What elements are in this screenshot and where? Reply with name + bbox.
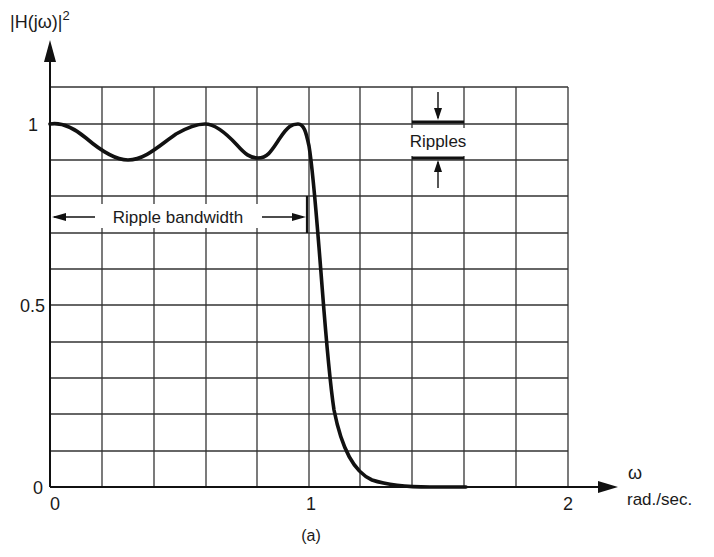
x-axis-units: rad./sec. [627,490,692,509]
arrow-up-icon [434,160,442,172]
x-tick-1: 1 [306,494,316,514]
x-axis-label: ω [628,463,642,483]
y-axis-arrow-icon [44,40,56,62]
y-tick-0: 0 [33,478,43,498]
arrow-left-icon [52,213,66,221]
ripples-label: Ripples [410,132,467,151]
x-tick-0: 0 [50,494,60,514]
chart: Ripple bandwidth Ripples |H(jω)|2 1 0.5 … [0,0,714,557]
y-tick-0-5: 0.5 [20,296,45,316]
y-axis-label: |H(jω)|2 [10,8,70,32]
arrow-down-icon [434,108,442,120]
x-tick-2: 2 [563,494,573,514]
arrow-right-icon [292,213,306,221]
x-axis-arrow-icon [598,481,618,493]
y-tick-1: 1 [28,115,38,135]
ripple-bandwidth-label: Ripple bandwidth [113,208,243,227]
figure-caption: (a) [301,527,321,544]
